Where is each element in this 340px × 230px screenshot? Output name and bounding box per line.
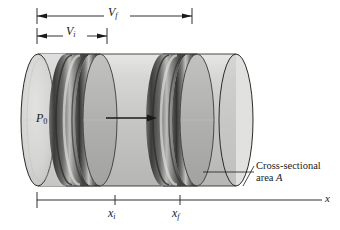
label-x-axis: x: [325, 192, 330, 204]
piston-final: [146, 54, 214, 186]
vi-arrowhead-left: [37, 33, 47, 38]
label-initial-volume: Vi: [66, 25, 76, 39]
label-position-final-subscript: f: [177, 212, 179, 221]
label-cross-sectional-area-line2: area A: [256, 172, 321, 184]
vf-arrowhead-right: [182, 13, 192, 18]
label-final-volume-subscript: f: [115, 11, 117, 20]
diagram-canvas: [0, 0, 340, 230]
label-initial-volume-subscript: i: [73, 30, 75, 39]
vi-arrowhead-right: [97, 33, 107, 38]
label-area-text: area: [256, 172, 276, 183]
label-position-final: xf: [172, 207, 180, 221]
label-area-symbol: A: [276, 172, 282, 183]
label-final-volume: Vf: [108, 6, 118, 20]
right-cap-ellipse: [219, 54, 253, 186]
label-cross-sectional-area: Cross-sectional area A: [256, 160, 321, 184]
label-position-initial: xi: [108, 207, 116, 221]
label-cross-sectional-area-line1: Cross-sectional: [256, 160, 321, 171]
vf-arrowhead-left: [37, 13, 47, 18]
label-pressure-subscript: 0: [43, 117, 47, 126]
x-axis: [37, 192, 322, 208]
piston-initial: [49, 54, 117, 186]
physics-diagram-figure: Vf Vi P0 xi xf x Cross-sectional area A: [0, 0, 340, 230]
label-pressure: P0: [36, 112, 47, 126]
cylinder-right-cap: [219, 54, 253, 186]
label-position-initial-subscript: i: [113, 212, 115, 221]
